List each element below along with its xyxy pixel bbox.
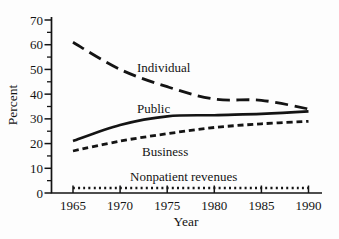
x-axis-tick-label: 1980 [201,198,227,213]
y-axis-tick-label: 40 [30,87,43,102]
y-axis-tick-label: 0 [37,186,44,201]
series-label-business: Business [142,144,188,159]
axis-spine [52,17,323,193]
x-axis-title: Year [174,214,199,229]
series-label-individual: Individual [137,60,191,75]
series-label-public: Public [137,101,170,116]
chart-figure: 010203040506070196519701975198019851990I… [0,0,339,239]
x-axis-tick-label: 1970 [107,198,133,213]
y-axis-tick-label: 50 [30,62,43,77]
y-axis-tick-label: 20 [30,136,43,151]
series-line-public [73,111,309,141]
y-axis-tick-label: 10 [30,161,43,176]
line-chart: 010203040506070196519701975198019851990I… [0,0,339,239]
y-axis-tick-label: 70 [30,13,43,28]
y-axis-title: Percent [5,85,20,126]
y-axis-tick-label: 30 [30,111,43,126]
series-label-nonpatient-revenues: Nonpatient revenues [130,169,237,184]
y-axis-tick-label: 60 [30,37,43,52]
series-line-business [73,121,309,151]
x-axis-tick-label: 1965 [60,198,86,213]
x-axis-tick-label: 1990 [296,198,322,213]
x-axis-tick-label: 1985 [248,198,274,213]
x-axis-tick-label: 1975 [154,198,180,213]
series-line-individual [73,42,309,109]
